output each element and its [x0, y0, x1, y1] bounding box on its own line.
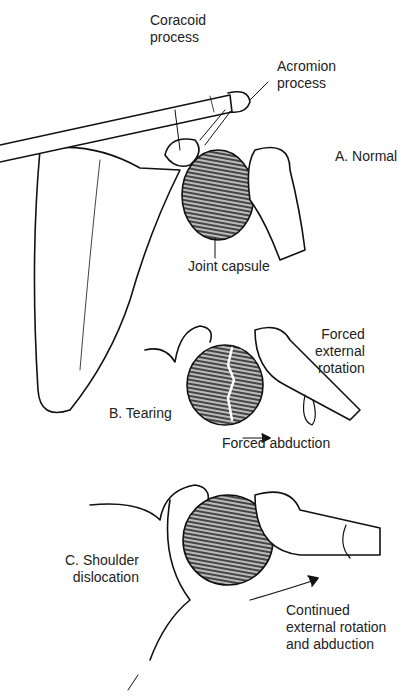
- label-joint-capsule: Joint capsule: [188, 258, 270, 275]
- label-coracoid-process: Coracoid process: [150, 12, 206, 46]
- panel-c-title: C. Shoulder dislocation: [65, 552, 139, 586]
- scapula-drawing: [34, 147, 180, 412]
- panel-b-title: B. Tearing: [109, 405, 172, 422]
- label-acromion-process: Acromion process: [277, 58, 336, 92]
- label-continued-rotation-abduction: Continued external rotation and abductio…: [286, 602, 386, 653]
- label-forced-abduction: Forced abduction: [222, 435, 330, 452]
- panel-a-title: A. Normal: [335, 148, 397, 165]
- label-forced-external-rotation: Forced external rotation: [315, 326, 365, 377]
